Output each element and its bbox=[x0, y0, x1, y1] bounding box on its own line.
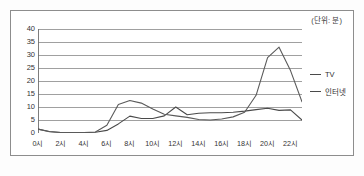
legend-label-tv: TV bbox=[325, 70, 335, 79]
legend-label-internet: 인터넷 bbox=[325, 86, 346, 97]
legend-line-icon bbox=[310, 74, 321, 75]
legend-line-icon bbox=[310, 91, 321, 92]
chart-figure: (단위: 분) 05101520253035400시2시4시6시8시10시12시… bbox=[0, 0, 364, 176]
unit-note: (단위: 분) bbox=[311, 14, 342, 25]
chart-legend: TV 인터넷 bbox=[310, 66, 362, 100]
plot-svg bbox=[38, 29, 302, 133]
legend-item-tv: TV bbox=[310, 66, 362, 83]
legend-item-internet: 인터넷 bbox=[310, 83, 362, 100]
plot-area bbox=[38, 29, 302, 133]
